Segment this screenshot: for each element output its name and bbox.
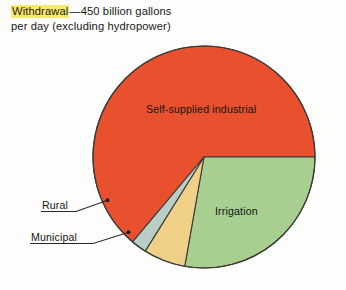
- slice-label-self-supplied-industrial: Self-supplied industrial: [146, 103, 256, 115]
- leader-dot-municipal: [127, 230, 131, 234]
- pie-chart-figure: Withdrawal—450 billion gallons per day (…: [0, 0, 346, 290]
- pie-chart-svg: [0, 0, 346, 290]
- slice-label-irrigation: Irrigation: [215, 205, 258, 217]
- slice-label-rural: Rural: [42, 199, 68, 211]
- slice-label-municipal: Municipal: [31, 231, 77, 243]
- leader-dot-rural: [106, 198, 110, 202]
